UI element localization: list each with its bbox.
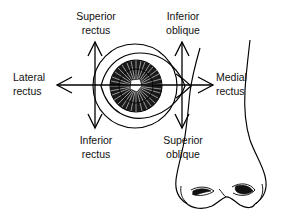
extraocular-muscle-diagram: Superior rectus Inferior oblique Lateral… [0, 0, 284, 221]
label-superior-rectus-line1: Superior [76, 10, 116, 22]
anatomy-figure: Superior rectus Inferior oblique Lateral… [0, 0, 284, 221]
label-lateral-rectus-line1: Lateral [13, 71, 45, 83]
label-medial-rectus-line2: rectus [216, 85, 245, 97]
label-inferior-oblique-line1: Inferior [167, 10, 200, 22]
label-lateral-rectus-line2: rectus [13, 85, 42, 97]
label-inferior-rectus-line2: rectus [82, 148, 111, 160]
label-superior-oblique-line2: oblique [166, 148, 200, 160]
label-superior-rectus-line2: rectus [82, 24, 111, 36]
label-superior-oblique-line1: Superior [163, 134, 203, 146]
label-inferior-oblique-line2: oblique [166, 24, 200, 36]
label-medial-rectus-line1: Medial [216, 71, 247, 83]
label-inferior-rectus-line1: Inferior [80, 134, 113, 146]
